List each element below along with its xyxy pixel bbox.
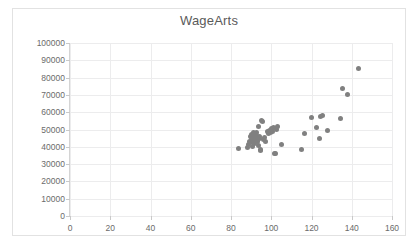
x-axis-tick-mark — [312, 216, 313, 220]
gridline-vertical — [70, 43, 71, 216]
scatter-point — [302, 131, 307, 136]
y-axis-tick-label: 40000 — [41, 142, 65, 152]
x-axis-tick-label: 100 — [264, 223, 278, 233]
scatter-point — [338, 116, 343, 121]
y-axis-tick-mark — [66, 78, 70, 79]
scatter-point — [275, 124, 280, 129]
plot-area: 0100002000030000400005000060000700008000… — [69, 43, 392, 217]
x-axis-tick-label: 20 — [106, 223, 115, 233]
x-axis-tick-mark — [191, 216, 192, 220]
scatter-point — [340, 86, 345, 91]
y-axis-tick-mark — [66, 112, 70, 113]
x-axis-tick-mark — [231, 216, 232, 220]
scatter-point — [325, 128, 330, 133]
x-axis-tick-label: 0 — [68, 223, 73, 233]
y-axis-tick-mark — [66, 130, 70, 131]
y-axis-tick-mark — [66, 199, 70, 200]
x-axis-tick-mark — [110, 216, 111, 220]
y-axis-tick-mark — [66, 181, 70, 182]
y-axis-tick-label: 10000 — [41, 194, 65, 204]
x-axis-tick-label: 80 — [226, 223, 235, 233]
gridline-vertical — [110, 43, 111, 216]
chart-container: WageArts 0100002000030000400005000060000… — [12, 8, 406, 236]
y-axis-tick-mark — [66, 60, 70, 61]
y-axis-tick-mark — [66, 43, 70, 44]
gridline-vertical — [151, 43, 152, 216]
gridline-vertical — [191, 43, 192, 216]
chart-title: WageArts — [13, 13, 405, 28]
y-axis-tick-mark — [66, 147, 70, 148]
scatter-point — [299, 147, 304, 152]
scatter-point — [273, 151, 278, 156]
y-axis-tick-label: 90000 — [41, 55, 65, 65]
x-axis-tick-mark — [392, 216, 393, 220]
x-axis-tick-mark — [70, 216, 71, 220]
x-axis-tick-label: 120 — [304, 223, 318, 233]
y-axis-tick-label: 20000 — [41, 176, 65, 186]
y-axis-tick-label: 30000 — [41, 159, 65, 169]
x-axis-tick-mark — [352, 216, 353, 220]
scatter-point — [263, 139, 268, 144]
x-axis-tick-label: 140 — [345, 223, 359, 233]
scatter-point — [256, 124, 261, 129]
scatter-point — [345, 92, 350, 97]
scatter-point — [260, 119, 265, 124]
scatter-point — [317, 136, 322, 141]
x-axis-tick-mark — [151, 216, 152, 220]
y-axis-tick-mark — [66, 95, 70, 96]
x-axis-tick-label: 160 — [385, 223, 399, 233]
y-axis-tick-label: 0 — [60, 211, 65, 221]
scatter-point — [320, 113, 325, 118]
gridline-vertical — [392, 43, 393, 216]
y-axis-tick-label: 60000 — [41, 107, 65, 117]
x-axis-tick-label: 40 — [146, 223, 155, 233]
x-axis-tick-label: 60 — [186, 223, 195, 233]
scatter-point — [309, 115, 314, 120]
scatter-point — [356, 66, 361, 71]
gridline-vertical — [312, 43, 313, 216]
gridline-vertical — [231, 43, 232, 216]
y-axis-tick-label: 70000 — [41, 90, 65, 100]
y-axis-tick-label: 80000 — [41, 73, 65, 83]
y-axis-tick-mark — [66, 164, 70, 165]
y-axis-tick-label: 50000 — [41, 125, 65, 135]
y-axis-tick-label: 100000 — [37, 38, 65, 48]
gridline-vertical — [352, 43, 353, 216]
scatter-point — [236, 146, 241, 151]
x-axis-tick-mark — [271, 216, 272, 220]
scatter-point — [279, 142, 284, 147]
